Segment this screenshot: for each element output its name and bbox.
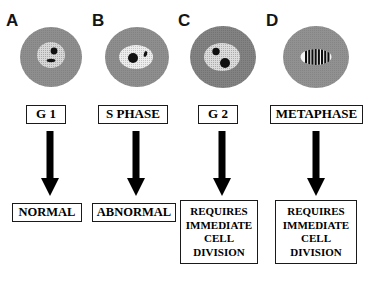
outcome-line: NORMAL xyxy=(16,204,78,220)
cell-g1 xyxy=(13,18,89,94)
outcome-line: REQUIRES xyxy=(278,205,354,219)
arrow-c xyxy=(211,131,233,197)
chromatin-dot-large xyxy=(128,53,138,63)
outcome-line: CELL xyxy=(278,232,354,246)
outcome-box-normal[interactable]: NORMAL xyxy=(12,203,82,222)
chromatin-dot-small xyxy=(212,48,219,55)
outcome-line: DIVISION xyxy=(278,246,354,260)
outcome-line: DIVISION xyxy=(183,246,255,260)
outcome-line: IMMEDIATE xyxy=(278,219,354,233)
column-c: C G 2 xyxy=(176,0,268,283)
chromatin-dash xyxy=(47,59,56,62)
nucleus xyxy=(37,42,65,68)
column-b: B S PHASE xyxy=(90,0,182,283)
arrow-a xyxy=(39,131,61,197)
cell-s-phase xyxy=(99,18,175,94)
outcome-box-abnormal[interactable]: ABNORMAL xyxy=(92,203,176,222)
outcome-box-requires-division[interactable]: REQUIRES IMMEDIATE CELL DIVISION xyxy=(180,200,258,264)
phase-box-metaphase[interactable]: METAPHASE xyxy=(270,105,363,124)
column-a: A G 1 xyxy=(4,0,96,283)
cell-cycle-diagram: A G 1 xyxy=(0,0,369,283)
phase-box-g1[interactable]: G 1 xyxy=(26,105,66,124)
outcome-line: ABNORMAL xyxy=(96,204,172,220)
arrow-b xyxy=(125,131,147,197)
column-d: D xyxy=(264,0,365,283)
outcome-line: IMMEDIATE xyxy=(183,219,255,233)
phase-box-s-phase[interactable]: S PHASE xyxy=(98,105,168,124)
outcome-box-requires-division[interactable]: REQUIRES IMMEDIATE CELL DIVISION xyxy=(275,200,357,264)
chromatin-dot xyxy=(51,48,58,55)
outcome-line: CELL xyxy=(183,232,255,246)
outcome-line: REQUIRES xyxy=(183,205,255,219)
arrow-d xyxy=(305,131,327,197)
cell-metaphase xyxy=(278,18,354,94)
panel-letter-d: D xyxy=(266,12,278,29)
chromatin-dot-large xyxy=(220,58,230,68)
cell-g2 xyxy=(185,18,261,94)
phase-box-g2[interactable]: G 2 xyxy=(198,105,238,124)
